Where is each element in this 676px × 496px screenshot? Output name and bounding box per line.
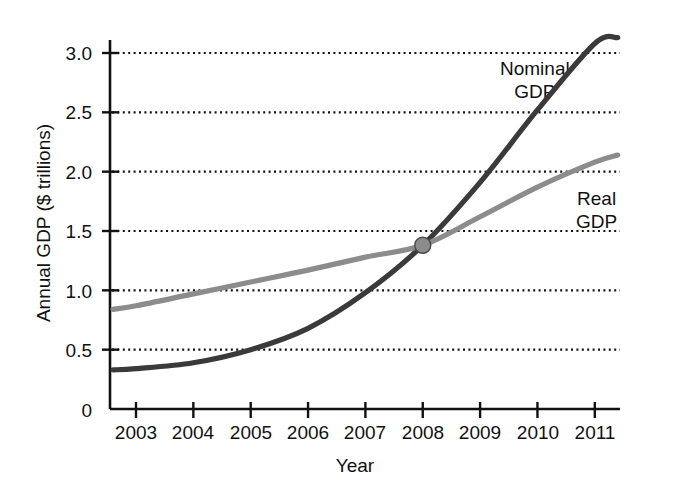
series-line-real-gdp xyxy=(113,155,618,309)
intersection-marker xyxy=(415,237,431,253)
axes xyxy=(110,40,620,409)
gridlines xyxy=(112,53,620,350)
chart-figure: Annual GDP ($ trillions) Year 3.0 2.5 2.… xyxy=(0,0,676,496)
data-series xyxy=(113,36,618,369)
plot-area xyxy=(0,0,676,496)
annotation-markers xyxy=(415,237,431,253)
series-line-nominal-gdp xyxy=(113,36,618,369)
